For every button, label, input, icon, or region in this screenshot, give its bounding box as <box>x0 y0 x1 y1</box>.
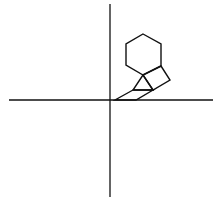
parallelogram-shape <box>115 90 153 100</box>
square-shape <box>143 66 170 90</box>
triangle-shape <box>133 75 153 90</box>
diagram-canvas <box>0 0 224 199</box>
